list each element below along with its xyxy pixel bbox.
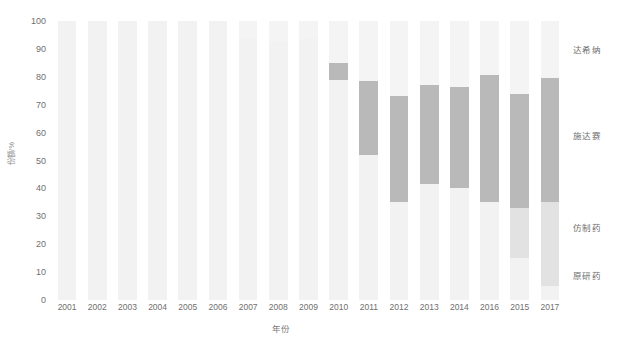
bar-column[interactable] [299, 21, 318, 300]
bar-segment[interactable] [420, 21, 439, 85]
bar-segment[interactable] [480, 202, 499, 300]
legend-item-2: 仿制药 [573, 221, 601, 233]
x-tick-label: 2016 [474, 302, 504, 312]
bar-segment[interactable] [269, 42, 288, 300]
bar-segment[interactable] [299, 21, 318, 39]
bar-segment[interactable] [480, 21, 499, 75]
bar-column[interactable] [148, 21, 167, 300]
bar-column[interactable] [510, 21, 529, 300]
x-tick-label: 2008 [263, 302, 293, 312]
bar-segment[interactable] [58, 21, 77, 300]
bar-column[interactable] [480, 21, 499, 300]
bar-segment[interactable] [541, 286, 560, 300]
y-tick-label: 10 [12, 267, 46, 277]
x-axis-label: 年份 [272, 322, 290, 334]
bar-segment[interactable] [209, 21, 228, 300]
bar-segment[interactable] [450, 87, 469, 189]
y-tick-label: 20 [12, 239, 46, 249]
y-tick-label: 40 [12, 183, 46, 193]
bar-column[interactable] [450, 21, 469, 300]
bar-segment[interactable] [329, 63, 348, 80]
y-tick-label: 50 [12, 156, 46, 166]
bar-column[interactable] [269, 21, 288, 300]
bar-segment[interactable] [541, 78, 560, 202]
x-tick-label: 2015 [505, 302, 535, 312]
x-tick-label: 2013 [414, 302, 444, 312]
stacked-bar-chart: 份额/% 0102030405060708090100 200120022003… [0, 0, 621, 353]
bar-segment[interactable] [420, 184, 439, 300]
bar-segment[interactable] [269, 21, 288, 42]
bar-column[interactable] [541, 21, 560, 300]
y-axis-tick-labels: 0102030405060708090100 [12, 0, 46, 353]
x-tick-label: 2014 [444, 302, 474, 312]
bar-column[interactable] [58, 21, 77, 300]
x-axis-tick-labels: 2001200220032004200520062007200820092010… [52, 302, 565, 318]
x-tick-label: 2017 [535, 302, 565, 312]
bar-column[interactable] [88, 21, 107, 300]
x-axis-label-wrap: 年份 [0, 322, 621, 334]
bar-segment[interactable] [239, 38, 258, 300]
bar-segment[interactable] [239, 21, 258, 38]
bar-column[interactable] [390, 21, 409, 300]
x-tick-label: 2005 [173, 302, 203, 312]
x-tick-label: 2006 [203, 302, 233, 312]
y-tick-label: 0 [12, 295, 46, 305]
bar-segment[interactable] [329, 21, 348, 63]
bar-column[interactable] [359, 21, 378, 300]
x-tick-label: 2009 [293, 302, 323, 312]
y-tick-label: 70 [12, 100, 46, 110]
x-tick-label: 2012 [384, 302, 414, 312]
bar-segment[interactable] [510, 21, 529, 94]
bar-segment[interactable] [390, 202, 409, 300]
bar-segment[interactable] [299, 39, 318, 300]
x-tick-label: 2003 [112, 302, 142, 312]
bar-segment[interactable] [118, 21, 137, 300]
y-tick-label: 60 [12, 128, 46, 138]
bar-column[interactable] [329, 21, 348, 300]
bar-segment[interactable] [541, 202, 560, 286]
bar-segment[interactable] [359, 81, 378, 155]
legend-item-3: 原研药 [573, 269, 601, 281]
bar-segment[interactable] [420, 85, 439, 184]
bar-segment[interactable] [450, 188, 469, 300]
bar-segment[interactable] [88, 21, 107, 300]
x-tick-label: 2010 [324, 302, 354, 312]
bar-segment[interactable] [359, 155, 378, 300]
x-tick-label: 2007 [233, 302, 263, 312]
bar-segment[interactable] [541, 21, 560, 78]
y-tick-label: 90 [12, 44, 46, 54]
bar-segment[interactable] [450, 21, 469, 87]
legend: 达希纳施达赛仿制药原研药 [573, 0, 621, 353]
bar-segment[interactable] [178, 21, 197, 300]
legend-item-1: 施达赛 [573, 129, 601, 141]
bar-segment[interactable] [359, 21, 378, 81]
bar-column[interactable] [178, 21, 197, 300]
bar-segment[interactable] [148, 21, 167, 300]
bar-column[interactable] [118, 21, 137, 300]
bar-segment[interactable] [390, 21, 409, 96]
bar-segment[interactable] [510, 208, 529, 258]
bar-segment[interactable] [510, 94, 529, 208]
x-tick-label: 2004 [143, 302, 173, 312]
y-tick-label: 80 [12, 72, 46, 82]
bar-segment[interactable] [510, 258, 529, 300]
y-tick-label: 30 [12, 211, 46, 221]
bar-segment[interactable] [480, 75, 499, 202]
x-tick-label: 2001 [52, 302, 82, 312]
plot-area [52, 21, 565, 300]
bar-column[interactable] [420, 21, 439, 300]
bar-column[interactable] [209, 21, 228, 300]
x-tick-label: 2011 [354, 302, 384, 312]
bar-column[interactable] [239, 21, 258, 300]
y-tick-label: 100 [12, 16, 46, 26]
bar-segment[interactable] [390, 96, 409, 202]
x-tick-label: 2002 [82, 302, 112, 312]
bar-segment[interactable] [329, 80, 348, 300]
legend-item-0: 达希纳 [573, 43, 601, 55]
